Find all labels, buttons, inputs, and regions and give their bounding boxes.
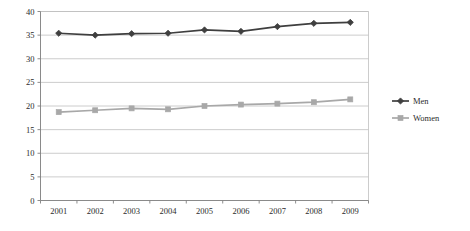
y-tick-label: 40 xyxy=(26,7,35,17)
y-tick-label: 25 xyxy=(26,77,35,87)
y-tick-label: 0 xyxy=(30,196,34,206)
line-chart: 0510152025303540 20012002200320042005200… xyxy=(0,0,470,231)
x-tick-label: 2001 xyxy=(50,206,67,216)
y-tick-label: 30 xyxy=(26,54,35,64)
y-tick-label: 20 xyxy=(26,101,35,111)
data-point-marker xyxy=(311,100,316,105)
x-tick-label: 2008 xyxy=(305,206,322,216)
data-point-marker xyxy=(398,116,403,121)
data-point-marker xyxy=(275,101,280,106)
x-axis-tick-labels: 200120022003200420052006200720082009 xyxy=(50,206,359,216)
data-point-marker xyxy=(93,108,98,113)
legend-label: Women xyxy=(413,113,440,123)
x-tick-label: 2004 xyxy=(160,206,178,216)
y-tick-label: 15 xyxy=(26,125,35,135)
x-tick-label: 2009 xyxy=(342,206,359,216)
legend-label: Men xyxy=(413,96,429,106)
y-tick-label: 35 xyxy=(26,30,35,40)
data-point-marker xyxy=(348,97,353,102)
data-point-marker xyxy=(129,106,134,111)
data-point-marker xyxy=(56,110,61,115)
y-tick-label: 10 xyxy=(26,148,35,158)
chart-container: 0510152025303540 20012002200320042005200… xyxy=(0,0,470,231)
x-tick-label: 2003 xyxy=(123,206,140,216)
y-tick-label: 5 xyxy=(30,172,34,182)
x-tick-label: 2005 xyxy=(196,206,213,216)
x-tick-label: 2007 xyxy=(269,206,286,216)
data-point-marker xyxy=(202,104,207,109)
x-tick-label: 2002 xyxy=(87,206,104,216)
x-tick-label: 2006 xyxy=(232,206,249,216)
data-point-marker xyxy=(238,102,243,107)
data-point-marker xyxy=(166,107,171,112)
